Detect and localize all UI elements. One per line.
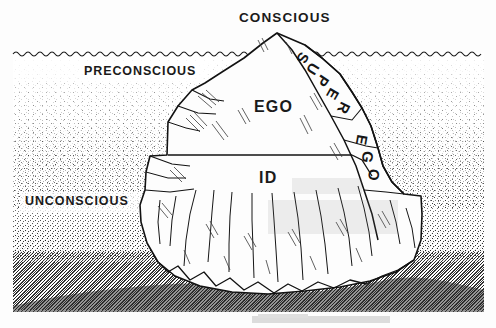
iceberg-illustration xyxy=(0,0,496,328)
iceberg-diagram-canvas: CONSCIOUS PRECONSCIOUS UNCONSCIOUS EGO I… xyxy=(0,0,496,328)
scan-smudge xyxy=(252,314,390,323)
